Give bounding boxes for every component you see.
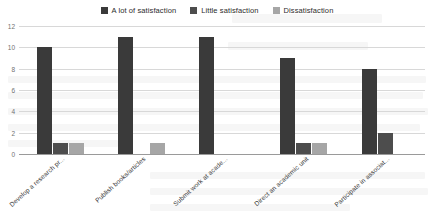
legend-label: Dissatisfaction [284, 6, 334, 15]
x-axis-labels: Develop a research pr...Publish books/ar… [19, 155, 425, 214]
legend-item-dissatisfaction[interactable]: Dissatisfaction [273, 6, 334, 15]
bar[interactable] [53, 143, 68, 154]
bar[interactable] [199, 37, 214, 154]
bar[interactable] [37, 47, 52, 154]
bar[interactable] [362, 69, 377, 154]
bar[interactable] [296, 143, 311, 154]
y-tick-label-10: 10 [0, 44, 15, 51]
y-tick-label-4: 4 [0, 108, 15, 115]
legend-swatch-icon [101, 7, 108, 14]
bar-group [362, 26, 409, 154]
x-tick-label: Direct an academic unit [253, 155, 310, 207]
bar-group [37, 26, 84, 154]
bar[interactable] [280, 58, 295, 154]
y-tick-label-12: 12 [0, 23, 15, 30]
bar[interactable] [312, 143, 327, 154]
x-tick-label: Submit work at acade... [171, 155, 228, 207]
bar[interactable] [378, 133, 393, 154]
x-tick-label: Develop a research pr... [8, 155, 66, 208]
bar[interactable] [69, 143, 84, 154]
bar-group [280, 26, 327, 154]
legend-item-a-lot-of-satisfaction[interactable]: A lot of satisfaction [101, 6, 177, 15]
bar-chart: A lot of satisfaction Little satisfactio… [0, 0, 434, 214]
legend-item-little-satisfaction[interactable]: Little satisfaction [190, 6, 258, 15]
plot-area: 12 10 8 6 4 2 0 [19, 26, 425, 154]
legend-label: A lot of satisfaction [112, 6, 177, 15]
legend-swatch-icon [190, 7, 197, 14]
y-tick-label-6: 6 [0, 87, 15, 94]
y-tick-label-2: 2 [0, 129, 15, 136]
legend-swatch-icon [273, 7, 280, 14]
bar-groups [19, 26, 425, 154]
y-tick-label-0: 0 [0, 151, 15, 158]
bar[interactable] [118, 37, 133, 154]
x-tick-label: Publish books/articles [94, 155, 147, 204]
legend-label: Little satisfaction [201, 6, 258, 15]
y-tick-label-8: 8 [0, 65, 15, 72]
bar-group [199, 26, 246, 154]
chart-legend: A lot of satisfaction Little satisfactio… [0, 6, 434, 15]
bar[interactable] [150, 143, 165, 154]
x-tick-label: Participate in associat... [333, 155, 391, 208]
bar-group [118, 26, 165, 154]
